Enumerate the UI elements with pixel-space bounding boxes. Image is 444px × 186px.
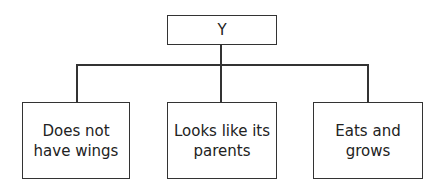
child-node-1: Does not have wings [22, 102, 130, 179]
connector-root-vertical [220, 44, 222, 66]
child-label-2: Looks like its parents [174, 121, 270, 161]
child-label-1: Does not have wings [34, 121, 119, 161]
child-node-2: Looks like its parents [167, 102, 277, 179]
root-node: Y [167, 15, 277, 45]
child-node-3: Eats and grows [313, 102, 423, 179]
child-label-3: Eats and grows [335, 121, 400, 161]
connector-left-vertical [76, 64, 78, 103]
connector-right-vertical [367, 64, 369, 103]
connector-horizontal [76, 64, 369, 66]
root-label: Y [217, 20, 226, 40]
connector-middle-vertical [220, 64, 222, 103]
